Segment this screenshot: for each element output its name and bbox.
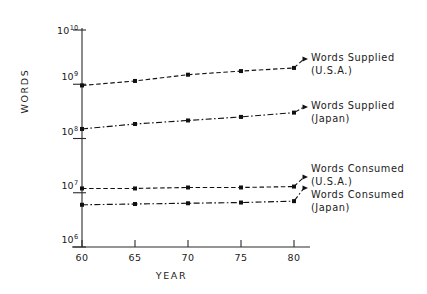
series-marker-3-2 — [186, 201, 190, 205]
series-1 — [80, 105, 308, 131]
y-axis-title: WORDS — [19, 92, 30, 114]
series-marker-2-3 — [239, 185, 243, 189]
series-marker-3-0 — [80, 203, 84, 207]
series-leader-arrow-1 — [303, 105, 309, 110]
y-tick-label-1e6: 106 — [40, 233, 78, 245]
series-marker-0-1 — [133, 79, 137, 83]
y-tick-label-1e9: 109 — [40, 70, 78, 82]
y-tick-label-1e10: 1010 — [40, 24, 78, 36]
series-marker-2-1 — [133, 186, 137, 190]
series-leader-arrow-0 — [303, 57, 309, 62]
x-tick-label-75: 75 — [226, 252, 256, 263]
series-label-words-supplied-japan: Words Supplied (Japan) — [311, 100, 395, 125]
series-marker-3-1 — [133, 202, 137, 206]
series-0 — [80, 57, 308, 88]
series-marker-1-2 — [186, 118, 190, 122]
x-tick-label-70: 70 — [173, 252, 203, 263]
y-tick-label-1e8: 108 — [40, 125, 78, 137]
series-marker-1-3 — [239, 115, 243, 119]
series-2 — [80, 175, 308, 191]
series-marker-0-2 — [186, 73, 190, 77]
y-tick-label-1e7: 107 — [40, 179, 78, 191]
series-marker-0-3 — [239, 69, 243, 73]
series-label-words-supplied-usa: Words Supplied (U.S.A.) — [311, 52, 395, 77]
x-axis-title: YEAR — [0, 270, 427, 281]
x-tick-label-65: 65 — [120, 252, 150, 263]
series-marker-0-0 — [80, 83, 84, 87]
line-chart: 1010 109 108 107 106 60 65 70 75 80 YEAR… — [0, 0, 427, 294]
x-tick-label-60: 60 — [67, 252, 97, 263]
series-label-words-consumed-usa: Words Consumed (U.S.A.) — [311, 163, 404, 188]
series-marker-2-2 — [186, 185, 190, 189]
series-marker-1-1 — [133, 122, 137, 126]
chart-plot-area — [0, 0, 427, 294]
series-marker-1-0 — [80, 127, 84, 131]
series-label-words-consumed-japan: Words Consumed (Japan) — [311, 189, 404, 214]
series-marker-2-0 — [80, 186, 84, 190]
series-leader-arrow-2 — [303, 175, 309, 180]
x-tick-label-80: 80 — [279, 252, 309, 263]
series-marker-3-3 — [239, 201, 243, 205]
series-leader-arrow-3 — [303, 186, 309, 191]
